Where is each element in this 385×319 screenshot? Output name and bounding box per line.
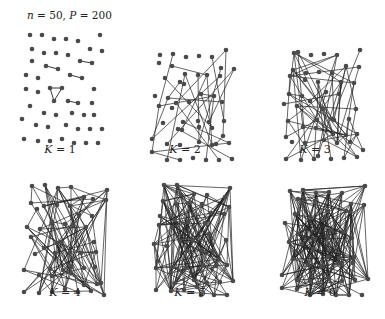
node — [340, 191, 345, 196]
node — [187, 100, 192, 105]
node — [44, 64, 49, 69]
node — [29, 201, 34, 206]
node — [92, 113, 97, 118]
node — [339, 80, 344, 85]
edge — [303, 186, 365, 190]
edge — [172, 66, 207, 75]
node — [186, 220, 191, 225]
edge — [104, 190, 107, 295]
node — [178, 158, 183, 163]
node — [352, 255, 357, 260]
k-symbol: K — [49, 286, 57, 299]
node — [203, 221, 208, 226]
node — [102, 293, 107, 298]
node — [232, 67, 237, 72]
edge — [168, 82, 180, 98]
node — [71, 223, 76, 228]
nodes — [20, 33, 105, 146]
node — [60, 86, 65, 91]
node — [331, 132, 336, 137]
node — [344, 133, 349, 138]
edge — [337, 67, 359, 143]
edge — [92, 216, 101, 283]
panel-label-k5: K = 5 — [160, 286, 220, 299]
node — [99, 281, 104, 286]
edge — [303, 127, 346, 135]
node — [42, 246, 47, 251]
panel-label-k4: K = 4 — [35, 286, 95, 299]
node — [105, 188, 110, 193]
node — [50, 220, 55, 225]
node — [157, 104, 162, 109]
node — [301, 188, 306, 193]
node — [322, 138, 327, 143]
node — [308, 99, 313, 104]
node — [68, 73, 73, 78]
node — [300, 242, 305, 247]
node — [230, 157, 235, 162]
node — [224, 238, 229, 243]
node — [329, 157, 334, 162]
node — [304, 71, 309, 76]
node — [314, 126, 319, 131]
node — [284, 157, 289, 162]
node — [301, 125, 306, 130]
node — [349, 202, 354, 207]
node — [191, 156, 196, 161]
node — [64, 37, 69, 42]
node — [228, 186, 233, 191]
node — [324, 90, 329, 95]
node — [157, 223, 162, 228]
node — [296, 232, 301, 237]
node — [351, 261, 356, 266]
node — [84, 225, 89, 230]
node — [354, 107, 359, 112]
node — [327, 190, 332, 195]
node — [158, 53, 163, 58]
node — [90, 214, 95, 219]
node — [326, 209, 331, 214]
node — [22, 290, 27, 295]
k-value: = 6 — [313, 286, 336, 299]
node — [28, 33, 33, 38]
node — [153, 94, 158, 99]
node — [88, 47, 93, 52]
node — [214, 264, 219, 269]
node — [36, 76, 41, 81]
node — [79, 251, 84, 256]
node — [150, 137, 155, 142]
node — [205, 73, 210, 78]
node — [299, 158, 304, 163]
node — [174, 202, 179, 207]
node — [344, 209, 349, 214]
panel-label-k3: K = 3 — [285, 143, 345, 156]
node — [24, 87, 29, 92]
k-symbol: K — [304, 286, 312, 299]
node — [300, 200, 305, 205]
node — [42, 111, 47, 116]
node — [309, 53, 314, 58]
node — [59, 240, 64, 245]
node — [69, 185, 74, 190]
node — [171, 265, 176, 270]
panel-label-k2: K = 2 — [155, 143, 215, 156]
node — [225, 293, 230, 298]
edge — [27, 227, 91, 291]
node — [91, 197, 96, 202]
node — [342, 156, 347, 161]
node — [327, 276, 332, 281]
node — [300, 94, 305, 99]
node — [156, 259, 161, 264]
node — [360, 293, 365, 298]
node — [165, 244, 170, 249]
node — [42, 204, 47, 209]
node — [183, 72, 188, 77]
node — [22, 268, 27, 273]
node — [222, 119, 227, 124]
node — [303, 78, 308, 83]
node — [306, 263, 311, 268]
node — [69, 271, 74, 276]
node — [56, 67, 61, 72]
node — [158, 214, 163, 219]
node — [200, 248, 205, 253]
